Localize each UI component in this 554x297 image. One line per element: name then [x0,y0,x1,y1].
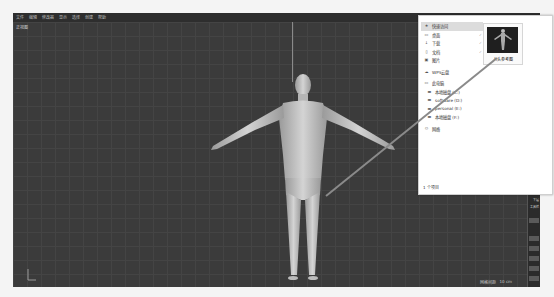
viewport-label[interactable]: 正视图 [16,24,28,30]
download-icon: ↓ [424,41,429,45]
strip-button[interactable] [529,218,539,223]
nav-label: 下载 [432,40,440,46]
nav-label: WPS云盘 [432,69,449,75]
nav-label: 图片 [432,57,440,63]
menu-file[interactable]: 文件 [16,13,24,22]
file-name: 人头参考图 [484,56,522,62]
computer-icon: ▭ [424,81,429,85]
viewport-status: 网格间距 10 cm [480,279,512,285]
human-model[interactable] [193,70,413,287]
strip-label-1: 下层 [533,198,539,202]
nav-network[interactable]: ⚇ 网络 [421,125,483,134]
strip-button[interactable] [529,236,539,241]
grid-spacing-value: 10 cm [500,279,512,285]
nav-drive-f[interactable]: ▬ 本地磁盘 (F:) [421,113,483,122]
cloud-icon: ☁ [424,70,429,74]
nav-desktop[interactable]: ▭ 桌面 ✓ [421,31,483,40]
nav-label: 此电脑 [432,80,444,86]
figure-thumbnail-icon [493,28,513,52]
star-icon: ★ [424,24,429,28]
drive-icon: ▬ [427,115,432,119]
nav-drive-e[interactable]: ▬ personal (E:) [421,105,483,114]
nav-label: 文档 [432,49,440,55]
pin-icon: ✓ [479,41,482,45]
pin-icon: ✓ [479,50,482,54]
strip-button[interactable] [529,256,539,261]
document-icon: ▯ [424,50,429,54]
menu-display[interactable]: 显示 [59,13,67,22]
nav-wps-cloud[interactable]: ☁ WPS云盘 [421,68,483,77]
strip-button[interactable] [529,266,539,271]
nav-quick-access[interactable]: ★ 快速访问 [421,22,483,31]
nav-documents[interactable]: ▯ 文档 ✓ [421,48,483,57]
picture-icon: ▣ [424,58,429,62]
menu-create[interactable]: 创建 [85,13,93,22]
nav-drive-c[interactable]: ▬ 本地磁盘 (C:) [421,88,483,97]
nav-label: 快速访问 [432,23,448,29]
axis-gizmo-icon [25,267,37,281]
drive-icon: ▬ [427,98,432,102]
menu-edit[interactable]: 编辑 [29,13,37,22]
drive-icon: ▬ [427,90,432,94]
nav-label: 本地磁盘 (F:) [435,114,459,120]
strip-button[interactable] [529,246,539,251]
drive-icon: ▬ [427,107,432,111]
file-item-reference-image[interactable]: 人头参考图 [483,23,523,65]
nav-drive-d[interactable]: ▬ software (D:) [421,96,483,105]
nav-pictures[interactable]: ▣ 图片 [421,56,483,65]
nav-downloads[interactable]: ↓ 下载 ✓ [421,39,483,48]
nav-label: 网络 [432,126,440,132]
item-count: 1 个项目 [423,184,439,190]
menu-modifiers[interactable]: 修改器 [42,13,54,22]
strip-button[interactable] [529,276,539,281]
network-icon: ⚇ [424,127,429,131]
nav-label: software (D:) [435,98,462,103]
strip-label-2: 工具栏 [530,205,539,209]
menu-select[interactable]: 选择 [72,13,80,22]
file-thumbnail [487,27,518,53]
explorer-nav-pane: ★ 快速访问 ▭ 桌面 ✓ ↓ 下载 ✓ ▯ 文档 ✓ ▣ 图片 ☁ WPS云盘 [421,22,483,133]
menu-help[interactable]: 帮助 [98,13,106,22]
nav-label: personal (E:) [435,106,462,111]
desktop-icon: ▭ [424,33,429,37]
grid-spacing-label: 网格间距 [480,279,496,285]
nav-label: 桌面 [432,32,440,38]
nav-this-pc[interactable]: ▭ 此电脑 [421,79,483,88]
pin-icon: ✓ [479,33,482,37]
nav-label: 本地磁盘 (C:) [435,89,460,95]
